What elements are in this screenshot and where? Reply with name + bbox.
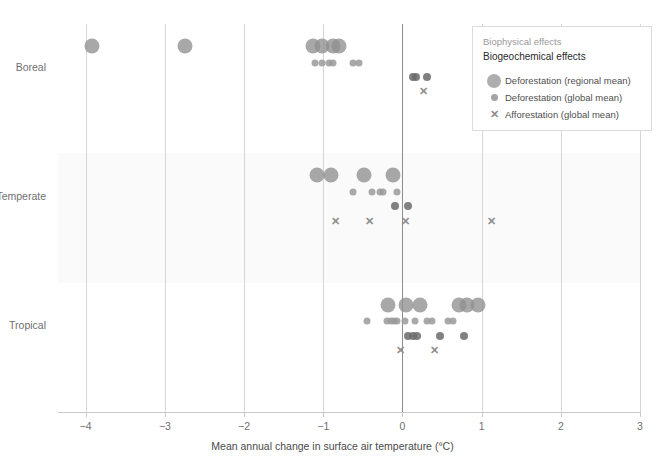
legend-item-afforestation-global[interactable]: ✕ Afforestation (global mean)	[483, 107, 641, 122]
legend-label: Deforestation (global mean)	[505, 92, 622, 103]
data-point-biogeochemical	[436, 332, 444, 340]
legend-heading-biogeochemical: Biogeochemical effects	[483, 51, 641, 62]
data-point-deforestation-global	[428, 318, 435, 325]
gridline	[86, 24, 87, 412]
data-point-deforestation-regional	[309, 168, 324, 183]
gridline	[165, 24, 166, 412]
chart-legend: Biophysical effects Biogeochemical effec…	[472, 26, 652, 131]
y-axis-category-label: Temperate	[0, 190, 46, 202]
data-point-afforestation-global: ✕	[331, 215, 340, 226]
data-point-deforestation-global	[393, 189, 400, 196]
data-point-deforestation-regional	[85, 38, 100, 53]
data-point-afforestation-global: ✕	[401, 215, 410, 226]
data-point-biogeochemical	[413, 332, 421, 340]
data-point-deforestation-global	[363, 318, 370, 325]
x-axis-tick-label: 0	[400, 420, 406, 432]
x-axis-tick	[640, 412, 641, 417]
data-point-deforestation-global	[450, 318, 457, 325]
legend-label: Deforestation (regional mean)	[505, 75, 631, 86]
legend-item-deforestation-global[interactable]: Deforestation (global mean)	[483, 90, 641, 105]
data-point-afforestation-global: ✕	[365, 215, 374, 226]
x-axis-tick-label: 2	[558, 420, 564, 432]
data-point-deforestation-global	[349, 189, 356, 196]
data-point-deforestation-regional	[178, 38, 193, 53]
data-point-deforestation-regional	[385, 168, 400, 183]
gridline	[323, 24, 324, 412]
category-band	[58, 153, 640, 282]
legend-label: Afforestation (global mean)	[505, 109, 619, 120]
x-axis-tick-label: 3	[637, 420, 643, 432]
data-point-deforestation-global	[369, 189, 376, 196]
data-point-biogeochemical	[412, 73, 420, 81]
x-axis-tick-label: −2	[238, 420, 250, 432]
data-point-deforestation-regional	[324, 168, 339, 183]
data-point-deforestation-global	[380, 189, 387, 196]
data-point-deforestation-regional	[381, 297, 396, 312]
data-point-afforestation-global: ✕	[430, 344, 439, 355]
circle-small-icon	[483, 94, 505, 101]
data-point-biogeochemical	[460, 332, 468, 340]
data-point-deforestation-global	[412, 318, 419, 325]
circle-large-icon	[483, 74, 505, 88]
data-point-deforestation-global	[329, 59, 336, 66]
x-axis-tick-label: 1	[479, 420, 485, 432]
data-point-biogeochemical	[391, 202, 399, 210]
data-point-deforestation-regional	[357, 168, 372, 183]
data-point-deforestation-regional	[471, 297, 486, 312]
data-point-deforestation-global	[355, 59, 362, 66]
x-axis-tick-label: −3	[159, 420, 171, 432]
chart-figure: −4−3−2−10123BorealTemperateTropical✕✕✕✕✕…	[0, 0, 665, 466]
gridline	[244, 24, 245, 412]
data-point-afforestation-global: ✕	[419, 86, 428, 97]
x-axis-title: Mean annual change in surface air temper…	[0, 440, 665, 452]
y-axis-category-label: Tropical	[9, 319, 46, 331]
cut-off-header-strip	[0, 0, 665, 10]
data-point-afforestation-global: ✕	[487, 215, 496, 226]
data-point-deforestation-global	[318, 59, 325, 66]
x-axis-line	[58, 412, 640, 413]
data-point-biogeochemical	[404, 202, 412, 210]
x-mark-icon: ✕	[483, 109, 505, 120]
data-point-deforestation-global	[393, 318, 400, 325]
legend-heading-biophysical: Biophysical effects	[483, 36, 641, 47]
x-axis-tick-label: −1	[317, 420, 329, 432]
data-point-biogeochemical	[423, 73, 431, 81]
data-point-deforestation-global	[401, 318, 408, 325]
data-point-deforestation-regional	[332, 38, 347, 53]
data-point-deforestation-regional	[412, 297, 427, 312]
y-axis-category-label: Boreal	[16, 61, 46, 73]
legend-item-deforestation-regional[interactable]: Deforestation (regional mean)	[483, 73, 641, 88]
x-axis-tick-label: −4	[80, 420, 92, 432]
data-point-afforestation-global: ✕	[396, 344, 405, 355]
